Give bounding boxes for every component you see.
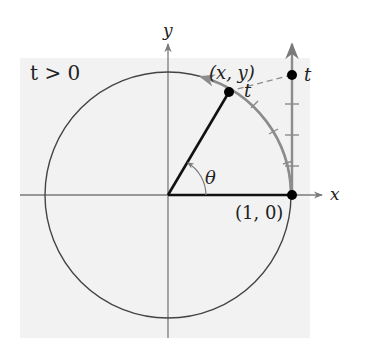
t-point-label: t <box>304 64 312 85</box>
background-panel <box>20 58 310 338</box>
point-t <box>287 70 297 80</box>
angle-label: θ <box>205 167 216 188</box>
x-axis-label: x <box>330 184 340 204</box>
start-point-label: (1, 0) <box>235 202 283 223</box>
point-xy <box>224 87 234 97</box>
point-1-0 <box>287 190 297 200</box>
condition-label: t > 0 <box>30 61 80 85</box>
unit-circle-diagram: t > 0 y x (x, y) t t (1, 0) θ <box>0 0 374 356</box>
y-axis-label: y <box>162 20 173 40</box>
arc-length-label: t <box>244 80 252 101</box>
